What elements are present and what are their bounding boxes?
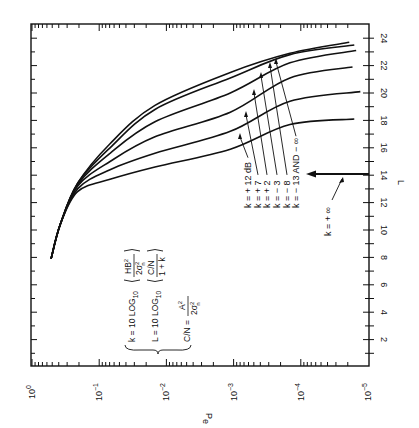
y-tick-label: 14 <box>379 170 389 180</box>
curve-series-0 <box>51 42 349 258</box>
formula-k: k = 10 LOG10 HB2 2σ2n <box>123 250 146 343</box>
x-axis-title: P e <box>201 413 214 424</box>
curve-label-leader <box>270 66 287 175</box>
svg-text:C/N: C/N <box>146 260 156 275</box>
x-tick-label: 10−4 <box>294 383 306 401</box>
arrowhead-icon <box>259 72 263 78</box>
svg-text:10−5: 10−5 <box>361 383 373 401</box>
paren-right <box>147 250 163 252</box>
curve-label: k = + 12 dB <box>243 162 253 208</box>
y-tick-label: 16 <box>379 143 389 153</box>
y-tick-label: 6 <box>379 282 389 287</box>
x-tick-label: 10−3 <box>227 383 239 401</box>
y-axis-title: L <box>396 180 406 185</box>
svg-text:A2: A2 <box>177 300 187 310</box>
svg-text:2σ2n: 2σ2n <box>134 261 146 275</box>
curve-series-3 <box>51 67 352 259</box>
curve-labels: k = + 12 dBk = + 7k = + 2k = − 3k = − 8k… <box>238 58 301 208</box>
arrowhead-icon <box>244 111 248 117</box>
k-infinity-arrowhead-icon <box>306 171 316 178</box>
y-tick-label: 10 <box>379 225 389 235</box>
svg-text:HB2: HB2 <box>123 258 133 274</box>
x-axis-tick-labels: 10010−110−210−310−410−5 <box>25 383 373 401</box>
svg-text:10−2: 10−2 <box>159 383 171 401</box>
y-tick-label: 2 <box>379 337 389 342</box>
curve-label: k = − 13 AND − ∞ <box>291 138 301 208</box>
y-axis-tick-labels: 24681012141618202224 <box>379 33 389 342</box>
arrowhead-icon <box>268 62 272 68</box>
k-infinity-annotation: k = + ∞ <box>306 171 369 237</box>
chart-figure: 10010−110−210−310−410−5 2468101214161820… <box>0 0 419 428</box>
svg-text:100: 100 <box>25 385 37 399</box>
x-axis-title-sub: e <box>201 419 211 424</box>
arrowhead-icon <box>252 89 256 95</box>
curve-group <box>51 42 360 258</box>
svg-text:1 + k: 1 + k <box>157 257 167 276</box>
x-tick-label: 10−2 <box>159 383 171 401</box>
arrowhead-icon <box>238 133 242 139</box>
y-tick-label: 4 <box>379 310 389 315</box>
curve-label: k = − 3 <box>272 180 282 208</box>
x-tick-label: 100 <box>25 385 37 399</box>
k-infinity-label: k = + ∞ <box>323 207 333 236</box>
svg-text:10−1: 10−1 <box>92 383 104 401</box>
svg-text:10−3: 10−3 <box>227 383 239 401</box>
paren-left <box>124 280 140 282</box>
svg-text:C/N =: C/N = <box>182 320 192 342</box>
formula-block: k = 10 LOG10 HB2 2σ2n L = 10 LOG10 C/N 1… <box>123 250 201 355</box>
curve-label-leader <box>240 137 248 158</box>
y-tick-label: 18 <box>379 115 389 125</box>
y-tick-label: 8 <box>379 255 389 260</box>
k-infinity-leader-arrowhead-icon <box>339 177 344 183</box>
formula-brace <box>125 345 191 354</box>
y-tick-label: 24 <box>379 33 389 43</box>
paren-right <box>124 250 140 252</box>
x-tick-label: 10−1 <box>92 383 104 401</box>
x-tick-label: 10−5 <box>361 383 373 401</box>
svg-text:10−4: 10−4 <box>294 383 306 401</box>
formula-cn: C/N = A2 2σ2n <box>177 296 201 342</box>
svg-text:k = 10 LOG10: k = 10 LOG10 <box>127 291 139 342</box>
y-tick-label: 20 <box>379 88 389 98</box>
curve-series-1 <box>51 45 354 259</box>
paren-left <box>147 280 163 282</box>
plot-frame <box>31 24 369 366</box>
y-tick-label: 12 <box>379 198 389 208</box>
svg-text:2σ2n: 2σ2n <box>189 301 201 315</box>
formula-l: L = 10 LOG10 C/N 1 + k <box>146 250 167 343</box>
axis-ticks <box>31 24 374 366</box>
y-tick-label: 22 <box>379 61 389 71</box>
curve-series-2 <box>51 51 356 259</box>
curve-label-leader <box>261 76 277 175</box>
curve-label: k = + 2 <box>262 180 272 208</box>
svg-text:L = 10 LOG10: L = 10 LOG10 <box>150 291 162 342</box>
